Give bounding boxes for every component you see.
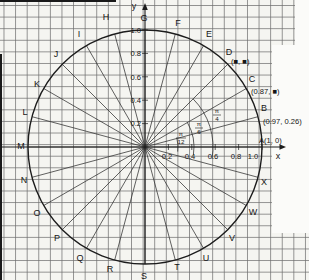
radial-line-T — [145, 147, 175, 260]
point-letter-G: G — [140, 13, 147, 23]
y-tick-label: 0.2 — [130, 119, 141, 128]
point-coords-D: (■, ■) — [231, 57, 250, 66]
point-letter-K: K — [34, 79, 40, 89]
y-tick-label: 0.8 — [130, 49, 141, 58]
radial-line-R — [115, 147, 145, 260]
angle-label-denominator: 4 — [215, 115, 219, 122]
y-axis-arrowhead — [142, 3, 148, 10]
radial-line-N — [32, 147, 145, 177]
point-letter-J: J — [54, 49, 59, 59]
radial-line-Q — [87, 147, 146, 248]
point-label-A: A(1, 0) — [259, 136, 282, 145]
x-axis-arrowhead — [280, 144, 287, 150]
radial-line-D — [145, 64, 228, 147]
x-tick-label: 1.0 — [248, 152, 259, 161]
y-tick-label: 1.0 — [130, 26, 141, 35]
radial-line-U — [145, 147, 204, 248]
x-tick-label: 0.6 — [208, 152, 219, 161]
point-letter-P: P — [54, 233, 60, 243]
point-letter-Q: Q — [76, 253, 83, 263]
point-letter-F: F — [175, 18, 181, 28]
y-tick-label: 0.6 — [130, 73, 141, 82]
radial-line-L — [32, 117, 145, 147]
x-axis-label: x — [276, 151, 281, 161]
point-letter-V: V — [229, 233, 235, 243]
point-letter-M: M — [17, 141, 25, 151]
radial-line-O — [44, 147, 145, 206]
angle-label-numerator: π — [197, 120, 201, 127]
point-letter-X: X — [261, 177, 267, 187]
point-coords-B: (0.97, 0.26) — [263, 117, 302, 126]
point-letter-R: R — [107, 264, 114, 274]
point-letter-S: S — [141, 271, 147, 280]
angle-label-denominator: 12 — [178, 138, 185, 145]
point-coords-C: (0.87, ■) — [251, 87, 280, 96]
radial-line-P — [62, 147, 145, 230]
radial-line-B — [145, 117, 258, 147]
point-letter-U: U — [203, 253, 210, 263]
point-letter-E: E — [206, 29, 212, 39]
angle-label-numerator: π — [179, 130, 183, 137]
point-letter-C: C — [249, 74, 256, 84]
unit-circle-diagram: xy0.20.40.60.81.01.00.80.60.40.2π12π6π4A… — [0, 0, 309, 280]
x-tick-label: 0.8 — [231, 152, 242, 161]
angle-arc-6 — [187, 123, 194, 155]
point-letter-O: O — [33, 208, 40, 218]
point-letter-N: N — [21, 175, 28, 185]
angle-label-numerator: π — [215, 107, 219, 114]
unit-circle-worksheet: xy0.20.40.60.81.01.00.80.60.40.2π12π6π4A… — [0, 0, 309, 280]
angle-label-denominator: 6 — [197, 128, 201, 135]
radial-line-F — [145, 34, 175, 147]
x-tick-label: 0.2 — [162, 152, 173, 161]
y-axis-label: y — [132, 1, 137, 11]
point-letter-H: H — [103, 12, 110, 22]
angle-arc-4 — [193, 99, 213, 159]
point-letter-W: W — [249, 207, 258, 217]
point-letter-T: T — [174, 262, 180, 272]
radial-line-C — [145, 89, 246, 148]
x-tick-label: 0.4 — [185, 152, 196, 161]
y-tick-label: 0.4 — [130, 96, 141, 105]
point-letter-B: B — [261, 103, 267, 113]
radial-line-E — [145, 46, 204, 147]
point-letter-I: I — [78, 29, 81, 39]
point-letter-L: L — [22, 107, 27, 117]
point-letter-D: D — [226, 47, 233, 57]
